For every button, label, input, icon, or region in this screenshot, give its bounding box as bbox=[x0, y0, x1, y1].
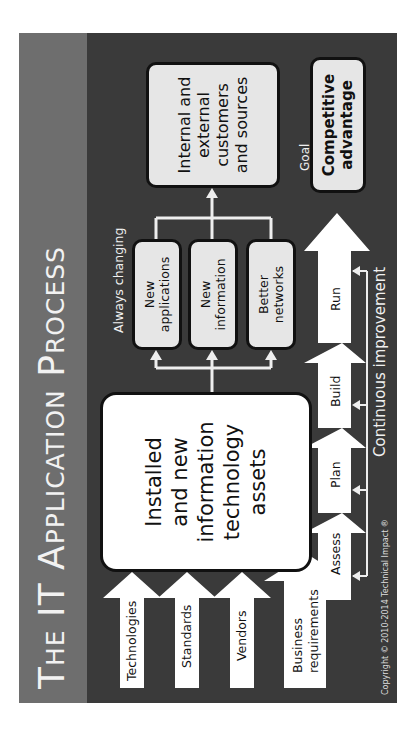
box-line: Better bbox=[256, 266, 271, 323]
box-line: New bbox=[142, 257, 157, 332]
input-label-standards: Standards bbox=[179, 605, 194, 668]
assets-line: and new bbox=[167, 421, 193, 542]
cycle-step-build: Build bbox=[328, 376, 343, 407]
goal-box: Internal and external customers and sour… bbox=[146, 62, 280, 188]
copyright-text: Copyright © 2010-2014 Technical Impact ® bbox=[381, 519, 390, 695]
competitive-line: Competitive bbox=[320, 74, 338, 176]
competitive-advantage-box: Competitive advantage bbox=[310, 57, 366, 193]
continuous-improvement-label: Continuous improvement bbox=[371, 267, 389, 457]
box-line: New bbox=[198, 258, 213, 330]
assets-line: technology bbox=[219, 421, 245, 542]
box-better-networks: Better networks bbox=[246, 239, 296, 350]
competitive-line: advantage bbox=[338, 74, 356, 176]
box-new-information: New information bbox=[188, 239, 238, 350]
goal-line: Internal and bbox=[175, 77, 194, 174]
assets-box: Installed and new information technology… bbox=[100, 392, 312, 572]
cycle-arrow-run bbox=[304, 213, 370, 343]
goal-line: and sources bbox=[232, 77, 251, 174]
assets-line: assets bbox=[245, 421, 271, 542]
box-line: networks bbox=[271, 266, 286, 323]
goal-line: customers bbox=[213, 77, 232, 174]
loop-arrowheads bbox=[352, 266, 360, 581]
input-label-technologies: Technologies bbox=[124, 601, 139, 682]
branch-arrowheads bbox=[150, 350, 277, 360]
merge-lines bbox=[156, 195, 271, 240]
input-label-requirements: requirements bbox=[306, 589, 321, 673]
box-line: applications bbox=[157, 257, 172, 332]
assets-line: Installed bbox=[141, 421, 167, 542]
goal-arrowhead bbox=[206, 188, 218, 198]
cycle-step-run: Run bbox=[328, 287, 343, 311]
it-application-process-slide: The IT Application Process bbox=[19, 33, 397, 703]
input-label-vendors: Vendors bbox=[234, 611, 249, 661]
cycle-step-plan: Plan bbox=[328, 461, 343, 488]
always-changing-label: Always changing bbox=[111, 228, 126, 333]
box-new-applications: New applications bbox=[132, 239, 182, 350]
goal-line: external bbox=[194, 77, 213, 174]
cycle-step-assess: Assess bbox=[328, 533, 343, 575]
assets-line: information bbox=[193, 421, 219, 542]
box-line: information bbox=[213, 258, 228, 330]
input-label-business: Business bbox=[290, 618, 305, 673]
